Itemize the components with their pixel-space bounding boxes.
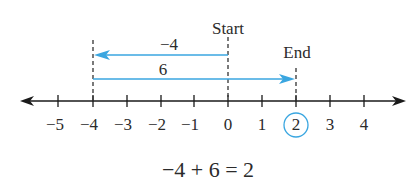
tick-label: 3 bbox=[326, 116, 335, 133]
tick-label: −5 bbox=[46, 116, 64, 133]
tick-label: −3 bbox=[114, 116, 132, 133]
start-label: Start bbox=[212, 20, 244, 37]
tick-label: −1 bbox=[181, 116, 199, 133]
arrow-minus4-label: −4 bbox=[160, 36, 178, 53]
number-line-diagram: Start End −4 6 −5 −4 −3 −2 −1 0 1 2 3 4 … bbox=[0, 0, 417, 193]
tick-label: −4 bbox=[80, 116, 98, 133]
equation: −4 + 6 = 2 bbox=[162, 157, 254, 183]
tick-label-highlighted: 2 bbox=[292, 116, 301, 133]
tick-label: 4 bbox=[360, 116, 369, 133]
end-label: End bbox=[283, 44, 310, 61]
tick-label: 0 bbox=[224, 116, 233, 133]
tick-label: 1 bbox=[258, 116, 267, 133]
tick-label: −2 bbox=[148, 116, 166, 133]
arrow-6-label: 6 bbox=[159, 61, 168, 78]
